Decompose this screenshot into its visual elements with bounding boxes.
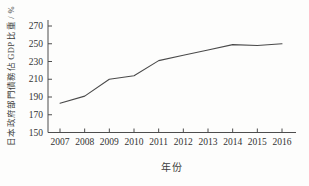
x-tick-label: 2015 (248, 137, 267, 147)
y-tick-label: 250 (29, 39, 44, 49)
line-chart-canvas: 1501701902102302502702007200820092010201… (0, 0, 309, 186)
x-tick-label: 2011 (149, 137, 168, 147)
x-tick-label: 2012 (174, 137, 193, 147)
y-tick-label: 210 (29, 74, 44, 84)
y-tick-label: 270 (29, 21, 44, 31)
x-tick-label: 2007 (51, 137, 70, 147)
x-tick-label: 2009 (100, 137, 119, 147)
y-axis-title: 日本政府部門債務佔 GDP 比重 / % (4, 6, 16, 146)
x-tick-label: 2016 (273, 137, 292, 147)
debt-ratio-line (60, 44, 282, 103)
x-axis-title: 年份 (161, 159, 183, 174)
y-tick-label: 190 (29, 92, 44, 102)
y-tick-label: 170 (29, 110, 44, 120)
y-tick-label: 150 (29, 128, 44, 138)
x-tick-label: 2014 (223, 137, 242, 147)
x-tick-label: 2010 (125, 137, 144, 147)
y-tick-label: 230 (29, 57, 44, 67)
chart-page: 1501701902102302502702007200820092010201… (0, 0, 309, 186)
x-tick-label: 2013 (199, 137, 218, 147)
x-tick-label: 2008 (75, 137, 94, 147)
